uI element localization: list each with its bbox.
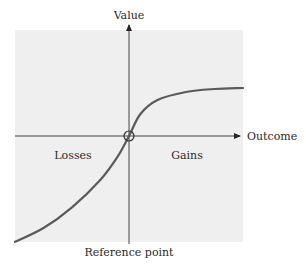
x-axis-label: Outcome [247,130,297,143]
y-axis-label: Value [113,9,145,22]
gains-label: Gains [171,149,203,162]
reference-point-label: Reference point [84,246,174,259]
value-function-chart: Value Outcome Losses Gains Reference poi… [0,0,306,269]
losses-label: Losses [54,149,92,162]
